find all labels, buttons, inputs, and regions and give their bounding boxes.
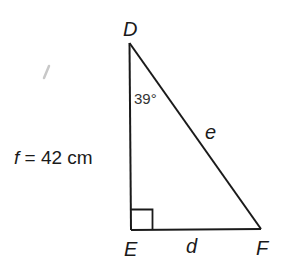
smudge-mark xyxy=(44,66,49,78)
vertex-label-f: F xyxy=(256,238,268,258)
side-f-de xyxy=(130,43,132,230)
side-e-label: e xyxy=(205,122,216,142)
triangle-diagram: D E F 39° e d f = 42 cm xyxy=(0,0,286,275)
side-d-ef xyxy=(131,229,261,230)
right-angle-marker xyxy=(131,210,153,231)
side-e-df xyxy=(130,43,262,229)
vertex-label-d: D xyxy=(123,19,137,39)
triangle-figure xyxy=(0,0,286,275)
angle-d-label: 39° xyxy=(134,91,157,106)
vertex-label-e: E xyxy=(124,239,137,259)
given-side-f: f = 42 cm xyxy=(14,148,93,167)
given-f-value: = 42 cm xyxy=(19,147,92,168)
side-d-label: d xyxy=(186,236,197,256)
